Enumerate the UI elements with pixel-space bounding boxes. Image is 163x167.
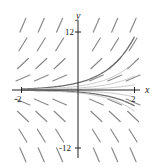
y-axis-label: y — [75, 10, 81, 21]
slope-segment — [93, 148, 99, 162]
slope-segment — [17, 111, 28, 121]
slope-field-figure: x y -2 2 12 -12 — [0, 0, 163, 167]
slope-segment — [54, 111, 65, 121]
axes: x y -2 2 12 -12 — [12, 10, 150, 158]
slope-segment — [92, 129, 100, 142]
slope-segment — [89, 99, 103, 105]
slope-segment — [16, 75, 30, 81]
slope-segment — [112, 18, 118, 32]
slope-segment — [37, 38, 45, 51]
slope-segment — [57, 18, 63, 32]
x-axis-label: x — [144, 84, 150, 95]
slope-segment — [20, 148, 26, 162]
slope-segment — [38, 18, 44, 32]
slope-segment — [91, 58, 102, 68]
slope-field-plot: x y -2 2 12 -12 — [0, 0, 163, 167]
slope-segment — [38, 148, 44, 162]
slope-segment — [112, 148, 118, 162]
slope-segment — [34, 99, 48, 105]
slope-segment — [53, 75, 67, 81]
slope-segment — [111, 38, 119, 51]
slope-segment — [91, 111, 102, 121]
x-tick-label-2: 2 — [131, 94, 136, 104]
slope-segment — [54, 58, 65, 68]
slope-segment — [111, 129, 119, 142]
slope-segment — [34, 75, 48, 81]
slope-segment — [129, 129, 137, 142]
slope-segment — [130, 18, 136, 32]
slope-segment — [92, 38, 100, 51]
slope-segment — [93, 18, 99, 32]
slope-segment — [36, 111, 47, 121]
x-tick-label-neg2: -2 — [14, 94, 22, 104]
slope-segment — [37, 129, 45, 142]
slope-segment — [19, 38, 27, 51]
slope-segment — [109, 111, 120, 121]
slope-segment — [19, 129, 27, 142]
y-tick-label-neg12: -12 — [59, 143, 71, 153]
slope-segment — [56, 129, 64, 142]
slope-segment — [128, 111, 139, 121]
slope-segment — [17, 58, 28, 68]
y-tick-label-12: 12 — [65, 27, 74, 37]
slope-segment — [56, 38, 64, 51]
slope-segment — [20, 18, 26, 32]
slope-segment — [130, 148, 136, 162]
slope-segment — [53, 99, 67, 105]
slope-segment — [36, 58, 47, 68]
